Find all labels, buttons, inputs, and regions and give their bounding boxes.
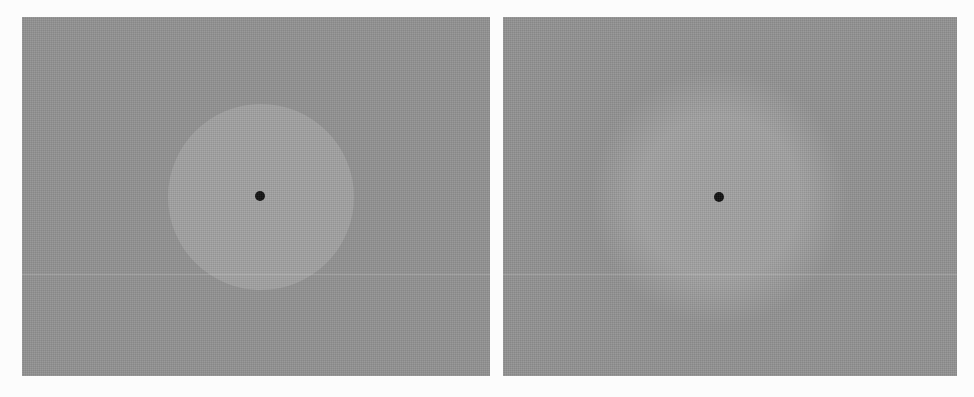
- left-stimulus-panel: [22, 17, 490, 376]
- fixation-dot: [255, 191, 265, 201]
- fixation-dot: [714, 192, 724, 202]
- right-stimulus-panel: [503, 17, 957, 376]
- left-stimulus-canvas: [22, 17, 490, 376]
- right-stimulus-canvas: [503, 17, 957, 376]
